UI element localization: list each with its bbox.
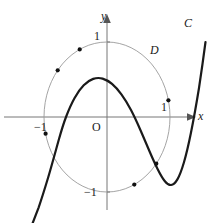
intersection-dot-4 bbox=[132, 183, 136, 187]
intersection-dot-3 bbox=[78, 47, 82, 51]
y-tick-positive-label: 1 bbox=[94, 30, 100, 42]
x-tick-negative-label: −1 bbox=[34, 121, 47, 133]
intersection-dot-2 bbox=[56, 68, 60, 72]
figure-container: y x C D O 1 −1 1 −1 bbox=[0, 0, 211, 223]
circle-label-D: D bbox=[150, 44, 159, 56]
x-axis-label: x bbox=[198, 110, 203, 122]
x-tick-positive-label: 1 bbox=[161, 101, 167, 113]
intersection-dot-5 bbox=[154, 162, 158, 166]
y-axis-label: y bbox=[101, 10, 106, 22]
figure-canvas bbox=[0, 0, 211, 223]
y-tick-negative-label: −1 bbox=[84, 186, 97, 198]
curve-label-C: C bbox=[184, 17, 192, 29]
origin-label: O bbox=[92, 121, 101, 133]
